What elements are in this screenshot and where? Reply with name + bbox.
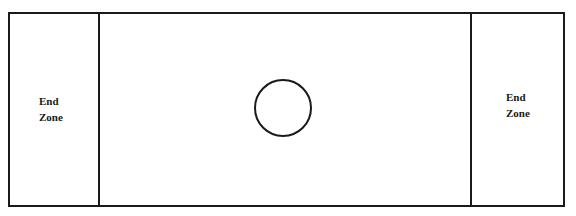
left-end-zone-line (98, 12, 100, 207)
right-end-zone-label-line2: Zone (506, 105, 530, 121)
left-end-zone-label-line2: Zone (39, 109, 63, 125)
right-end-zone-label-line1: End (506, 89, 530, 105)
center-circle (254, 79, 312, 137)
right-end-zone-label: End Zone (506, 89, 530, 121)
left-end-zone-label-line1: End (39, 93, 63, 109)
left-end-zone-label: End Zone (39, 93, 63, 125)
right-end-zone-line (470, 12, 472, 207)
